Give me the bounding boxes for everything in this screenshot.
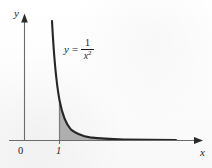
equation-denominator-exponent: 2 [88,49,92,57]
origin-label: 0 [18,146,23,157]
curve-equation-annotation: y = 1 x2 [64,38,94,61]
equation-equals-sign: = [72,44,78,55]
x-axis-label: x [200,147,205,158]
equation-denominator: x2 [82,50,94,61]
x-tick-label-one: 1 [56,146,61,157]
equation-left-hand-side: y [64,44,69,55]
equation-numerator: 1 [83,38,92,49]
equation-fraction: 1 x2 [81,38,94,61]
x-axis-arrowhead-icon [194,137,203,144]
graph-canvas [0,0,212,168]
y-axis-label: y [14,8,19,19]
y-axis-arrowhead-icon [21,14,28,23]
figure-container: y x 0 1 y = 1 x2 [0,0,212,168]
